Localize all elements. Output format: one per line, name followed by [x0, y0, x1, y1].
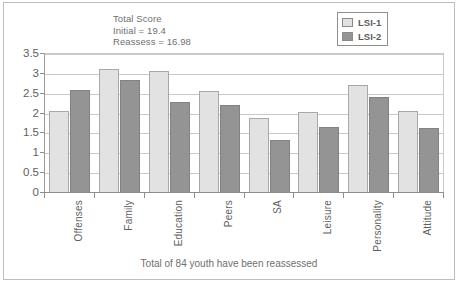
bar-group — [145, 54, 195, 193]
x-axis-tick-mark — [293, 193, 294, 198]
bar-lsi-1-family — [99, 69, 119, 193]
chart-caption: Total of 84 youth have been reassessed — [0, 258, 458, 269]
bar-lsi-2-education — [170, 102, 190, 193]
y-axis-tick-label: 1 — [33, 146, 39, 158]
y-axis-tick-mark — [40, 132, 44, 133]
annotation-line-reassess: Reassess = 16.98 — [113, 36, 191, 48]
bar-lsi-1-peers — [199, 91, 219, 193]
plot-area — [44, 53, 444, 193]
y-axis-tick-mark — [40, 53, 44, 54]
y-axis-tick-label: 3 — [33, 67, 39, 79]
y-axis-tick-mark — [40, 93, 44, 94]
bar-lsi-2-leisure — [319, 127, 339, 193]
y-axis-tick-mark — [40, 113, 44, 114]
bar-group — [195, 54, 245, 193]
y-axis-tick-label: 0 — [33, 186, 39, 198]
x-axis-tick-mark — [343, 193, 344, 198]
bar-lsi-1-attitude — [398, 111, 418, 193]
x-axis-tick-mark — [244, 193, 245, 198]
legend-swatch-lsi-1 — [342, 18, 353, 27]
x-axis-tick-mark — [443, 193, 444, 198]
chart-legend: LSI-1 LSI-2 — [337, 12, 388, 46]
x-axis-label-family: Family — [123, 200, 134, 231]
y-axis-tick-label: 1.5 — [23, 126, 39, 138]
legend-label-lsi-1: LSI-1 — [358, 17, 381, 28]
x-axis-label-sa: SA — [272, 200, 283, 214]
bar-lsi-2-family — [120, 80, 140, 193]
bar-group — [344, 54, 394, 193]
legend-label-lsi-2: LSI-2 — [358, 31, 381, 42]
y-axis-tick-mark — [40, 152, 44, 153]
annotation-line-initial: Initial = 19.4 — [113, 25, 191, 37]
bar-lsi-2-attitude — [419, 128, 439, 193]
x-axis-tick-mark — [94, 193, 95, 198]
bar-lsi-2-peers — [220, 105, 240, 193]
x-axis-label-personality: Personality — [372, 200, 383, 252]
chart-figure: Total Score Initial = 19.4 Reassess = 16… — [0, 0, 458, 283]
bar-lsi-1-sa — [249, 118, 269, 193]
x-axis-label-attitude: Attitude — [422, 200, 433, 236]
score-annotation: Total Score Initial = 19.4 Reassess = 16… — [113, 13, 191, 48]
x-axis-tick-mark — [194, 193, 195, 198]
bar-group — [45, 54, 95, 193]
x-axis-tick-mark — [393, 193, 394, 198]
y-axis-tick-label: 3.5 — [23, 47, 39, 59]
plot-right-edge — [443, 53, 444, 192]
y-axis-tick-mark — [40, 73, 44, 74]
y-axis-tick-mark — [40, 172, 44, 173]
x-axis-label-peers: Peers — [223, 200, 234, 227]
bar-lsi-2-personality — [369, 97, 389, 193]
y-axis-tick-label: 2 — [33, 107, 39, 119]
y-axis: 00.511.522.533.5 — [0, 0, 39, 283]
y-axis-tick-label: 0.5 — [23, 166, 39, 178]
bar-lsi-1-offenses — [49, 111, 69, 193]
x-axis-label-offenses: Offenses — [73, 200, 84, 241]
bar-lsi-1-leisure — [298, 112, 318, 193]
x-axis-label-education: Education — [173, 200, 184, 246]
legend-entry-lsi-1: LSI-1 — [342, 16, 381, 28]
legend-swatch-lsi-2 — [342, 32, 353, 41]
bar-group — [294, 54, 344, 193]
legend-entry-lsi-2: LSI-2 — [342, 30, 381, 42]
bar-lsi-2-sa — [270, 140, 290, 193]
bar-lsi-1-education — [149, 71, 169, 193]
annotation-line-total-score: Total Score — [113, 13, 191, 25]
y-axis-tick-label: 2.5 — [23, 87, 39, 99]
x-axis-tick-mark — [44, 193, 45, 198]
bar-lsi-1-personality — [348, 85, 368, 193]
bar-group — [245, 54, 295, 193]
bar-group — [394, 54, 444, 193]
bar-group — [95, 54, 145, 193]
x-axis-label-leisure: Leisure — [322, 200, 333, 234]
bar-lsi-2-offenses — [70, 90, 90, 193]
x-axis-tick-mark — [144, 193, 145, 198]
